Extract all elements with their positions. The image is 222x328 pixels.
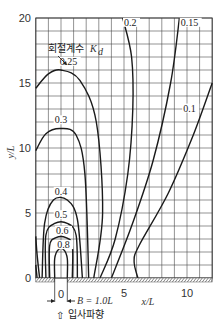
contour-label: 0.15 — [181, 17, 199, 28]
y-axis-label: y/L — [5, 145, 16, 159]
y-tick-5: 5 — [25, 207, 31, 219]
x-axis-ticks: 5 10 — [121, 287, 193, 299]
contour-label: 0.2 — [124, 17, 137, 28]
coefficient-subscript: d — [98, 46, 104, 57]
y-tick-15: 15 — [19, 77, 31, 89]
coefficient-symbol: K — [89, 43, 98, 54]
contour-0_1 — [134, 83, 212, 278]
gap-annotation: 0 B = 1.0L ⇧ 입사파향 — [47, 288, 113, 321]
contour-label: 0.3 — [55, 114, 67, 125]
y-tick-10: 10 — [19, 142, 31, 154]
x-tick-5: 5 — [121, 287, 127, 299]
x-tick-10: 10 — [181, 287, 193, 299]
coefficient-label: 회절계수 — [48, 42, 84, 54]
contour-label: 0.6 — [56, 225, 69, 236]
contour-label: 0.4 — [55, 186, 67, 197]
y-axis-ticks: 20 15 10 5 0 — [19, 12, 31, 284]
contour-label: 0.1 — [183, 103, 196, 114]
x-axis-label: x/L — [141, 296, 155, 307]
contour-label: 0.8 — [57, 239, 70, 250]
incident-wave-label: 입사파향 — [68, 308, 104, 320]
contour-label: 0.5 — [55, 209, 67, 220]
gap-zero-label: 0 — [58, 288, 64, 300]
diffraction-diagram-chart: 0.250.30.40.50.60.80.20.150.1 20 15 10 5… — [0, 0, 222, 328]
incident-arrow-icon: ⇧ — [56, 310, 64, 321]
y-tick-20: 20 — [19, 12, 31, 24]
gap-width-label: B = 1.0L — [77, 295, 113, 306]
contour-label: 0.25 — [60, 56, 78, 67]
y-tick-0: 0 — [25, 272, 31, 284]
